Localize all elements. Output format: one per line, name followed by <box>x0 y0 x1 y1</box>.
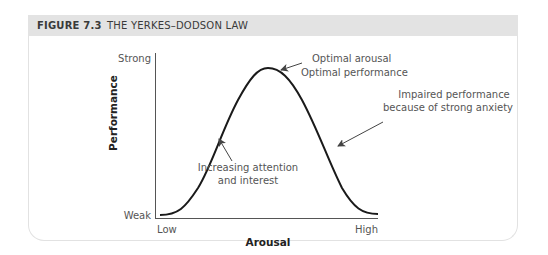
x-axis-low-label: Low <box>157 224 177 235</box>
increasing-annotation-line1: Increasing attention <box>198 162 298 173</box>
y-axis-strong-label: Strong <box>118 53 151 64</box>
increasing-annotation-line2: and interest <box>218 175 278 186</box>
x-axis-title: Arousal <box>246 236 291 248</box>
performance-curve <box>160 68 378 215</box>
impaired-arrow-icon <box>338 122 383 146</box>
increasing-arrow-icon <box>219 139 232 161</box>
impaired-annotation-line2: because of strong anxiety <box>383 102 513 113</box>
peak-annotation-line2: Optimal performance <box>301 67 408 78</box>
y-axis-weak-label: Weak <box>124 210 152 221</box>
impaired-annotation-line1: Impaired performance <box>398 89 510 100</box>
peak-annotation-line1: Optimal arousal <box>312 53 391 64</box>
y-axis-title: Performance <box>107 75 119 151</box>
x-axis-high-label: High <box>355 224 378 235</box>
peak-arrow-icon <box>281 63 302 70</box>
yerkes-dodson-diagram: Strong Weak Low High Arousal Performance… <box>0 0 548 255</box>
